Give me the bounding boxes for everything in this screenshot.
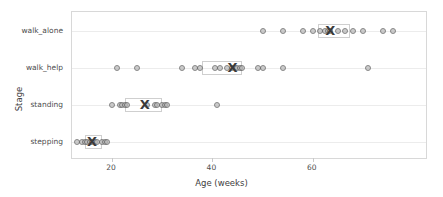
data-point <box>164 102 170 108</box>
data-point <box>114 65 120 71</box>
plot-area: XXXX <box>71 11 427 159</box>
data-point <box>217 65 223 71</box>
data-point <box>280 65 286 71</box>
data-point <box>342 28 348 34</box>
x-axis-title: Age (weeks) <box>0 178 443 188</box>
data-point <box>109 102 115 108</box>
y-tick-label-walk-help: walk_help <box>26 62 63 71</box>
data-point <box>260 28 266 34</box>
data-point <box>280 28 286 34</box>
x-tick-label: 20 <box>106 163 116 172</box>
data-point <box>197 65 203 71</box>
y-tick-label-standing: standing <box>30 99 63 108</box>
data-point <box>104 139 110 145</box>
data-point <box>239 65 245 71</box>
x-tick-label: 40 <box>207 163 217 172</box>
x-tick-mark <box>212 158 213 162</box>
data-point <box>134 65 140 71</box>
chart-figure: Stage walk_alone walk_help standing step… <box>0 0 443 197</box>
y-axis-tick-labels: walk_alone walk_help standing stepping <box>0 11 68 159</box>
data-point <box>310 28 316 34</box>
data-point <box>390 28 396 34</box>
mean-marker: X <box>86 136 98 148</box>
data-point <box>179 65 185 71</box>
x-tick-mark <box>313 158 314 162</box>
category-baseline <box>72 68 426 69</box>
category-baseline <box>72 142 426 143</box>
y-tick-label-walk-alone: walk_alone <box>21 25 63 34</box>
y-tick-label-stepping: stepping <box>30 136 63 145</box>
x-tick-label: 60 <box>307 163 317 172</box>
x-tick-mark <box>112 158 113 162</box>
data-point <box>360 28 366 34</box>
data-point <box>350 28 356 34</box>
mean-marker: X <box>324 25 336 37</box>
data-point <box>260 65 266 71</box>
data-point <box>124 102 130 108</box>
data-point <box>300 28 306 34</box>
data-point <box>214 102 220 108</box>
data-point <box>365 65 371 71</box>
mean-marker: X <box>226 62 238 74</box>
mean-marker: X <box>139 99 151 111</box>
data-point <box>380 28 386 34</box>
category-baseline <box>72 31 426 32</box>
